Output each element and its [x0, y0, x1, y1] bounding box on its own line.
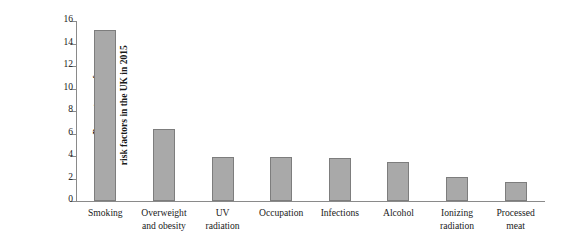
y-axis-tick-label: 16 — [64, 14, 74, 24]
bar-chart-figure: Percentages of cancer attributable to mo… — [0, 0, 561, 245]
y-axis-tick-label: 14 — [64, 37, 74, 47]
y-axis-tick-label: 8 — [68, 104, 73, 114]
bar — [94, 30, 116, 201]
y-axis-tick-label: 0 — [68, 194, 73, 204]
bar — [387, 162, 409, 201]
x-axis-tick-label-line: meat — [479, 220, 553, 233]
y-axis-tick-label: 10 — [64, 82, 74, 92]
x-axis-tick-label-line: Processed — [479, 207, 553, 220]
x-axis-tick-label-line: radiation — [186, 220, 260, 233]
x-axis-tick-label: Processedmeat — [479, 207, 553, 232]
bar — [270, 157, 292, 201]
y-axis-line — [76, 21, 77, 201]
bar — [446, 177, 468, 201]
bar — [329, 158, 351, 201]
y-axis-tick-label: 12 — [64, 59, 74, 69]
bar — [153, 129, 175, 201]
x-axis-line — [76, 201, 545, 202]
y-axis-tick-label: 6 — [68, 127, 73, 137]
bar — [505, 182, 527, 201]
plot-area: 0246810121416 SmokingOverweightand obesi… — [76, 21, 545, 201]
y-axis-tick-label: 2 — [68, 172, 73, 182]
y-axis-tick-label: 4 — [68, 149, 73, 159]
bar — [212, 157, 234, 201]
